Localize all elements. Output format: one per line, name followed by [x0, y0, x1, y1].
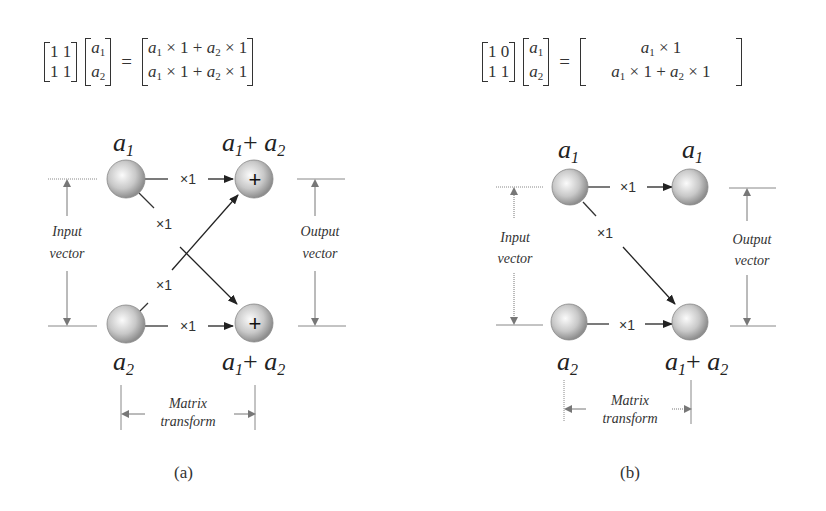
weight-label: ×1 — [180, 171, 196, 187]
output-label-bottom: a1+ a2 — [665, 347, 728, 378]
node-label-a2: a2 — [113, 347, 134, 378]
input-label-1: Input — [51, 224, 83, 239]
edge-a1-to-out2 — [623, 247, 675, 304]
output-label-2: vector — [735, 253, 771, 268]
input-node-a2 — [107, 305, 145, 343]
input-node-a1 — [552, 169, 588, 205]
input-label-1: Input — [499, 230, 531, 245]
output-label-top: a1+ a2 — [222, 128, 285, 159]
transform-label-2: transform — [602, 411, 657, 426]
output-label-2: vector — [303, 246, 339, 261]
input-label-2: vector — [50, 246, 86, 261]
input-node-a1 — [107, 160, 145, 198]
edge-a1-to-out2 — [180, 247, 237, 304]
edge-a1-diag-stub — [139, 193, 154, 208]
transform-label-1: Matrix — [610, 393, 650, 408]
panel-a: a1 a1+ a2 a2 a1+ a2 Input vector Output … — [48, 128, 346, 430]
weight-label: ×1 — [597, 225, 613, 241]
plus-icon: + — [249, 311, 262, 336]
weight-label: ×1 — [156, 216, 172, 232]
transform-label-1: Matrix — [168, 396, 208, 411]
transform-label-2: transform — [160, 414, 215, 429]
node-label-a2: a2 — [557, 347, 578, 378]
edge-a1-diag-stub — [583, 202, 596, 216]
plus-icon: + — [249, 167, 262, 192]
weight-label: ×1 — [180, 318, 196, 334]
input-node-a2 — [551, 304, 587, 340]
caption-a: (a) — [174, 463, 193, 483]
diagram-canvas: a1 a1+ a2 a2 a1+ a2 Input vector Output … — [0, 0, 826, 511]
output-label-top: a1 — [682, 135, 703, 166]
edge-a2-to-out1 — [172, 195, 238, 270]
output-label-1: Output — [301, 224, 341, 239]
panel-b: a1 a1 a2 a1+ a2 Input vector Output vect… — [496, 135, 776, 426]
node-label-a1: a1 — [558, 135, 579, 166]
output-node-top — [672, 169, 708, 205]
weight-label: ×1 — [156, 277, 172, 293]
output-node-bottom — [672, 304, 708, 340]
weight-label: ×1 — [620, 179, 636, 195]
output-label-bottom: a1+ a2 — [222, 347, 285, 378]
caption-b: (b) — [620, 463, 640, 483]
output-label-1: Output — [733, 232, 773, 247]
node-label-a1: a1 — [113, 128, 134, 159]
input-label-2: vector — [498, 251, 534, 266]
weight-label: ×1 — [619, 317, 635, 333]
